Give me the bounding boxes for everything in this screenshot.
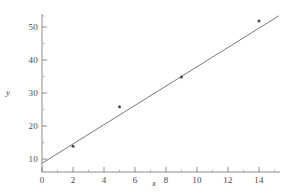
x-tick-label-12: 12 bbox=[223, 175, 232, 185]
x-tick-label-6: 6 bbox=[133, 175, 138, 185]
fitted-regression-line bbox=[42, 16, 279, 164]
y-tick-label-30: 30 bbox=[18, 88, 38, 98]
y-tick-label-50: 50 bbox=[18, 22, 38, 32]
y-axis-ticks bbox=[42, 27, 47, 159]
x-axis-title: x bbox=[152, 178, 156, 188]
x-tick-label-4: 4 bbox=[102, 175, 107, 185]
x-tick-label-0: 0 bbox=[40, 175, 45, 185]
x-tick-label-2: 2 bbox=[71, 175, 76, 185]
y-tick-label-10: 10 bbox=[18, 154, 38, 164]
chart-figure: 0 2 4 6 8 10 12 14 10 20 30 40 50 y x bbox=[0, 0, 283, 194]
data-point bbox=[180, 76, 183, 79]
data-point bbox=[118, 105, 121, 108]
data-point bbox=[72, 145, 75, 148]
y-tick-label-20: 20 bbox=[18, 121, 38, 131]
x-tick-label-8: 8 bbox=[164, 175, 169, 185]
scatter-plot-canvas bbox=[0, 0, 283, 194]
data-point-markers bbox=[72, 20, 261, 148]
y-axis-title: y bbox=[6, 87, 10, 97]
y-tick-label-40: 40 bbox=[18, 55, 38, 65]
x-tick-label-14: 14 bbox=[254, 175, 263, 185]
x-tick-label-10: 10 bbox=[192, 175, 201, 185]
data-point bbox=[258, 20, 261, 23]
